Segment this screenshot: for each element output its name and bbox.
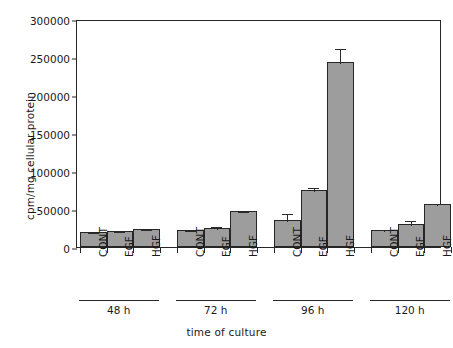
category-label-hgf: HGF <box>441 235 453 257</box>
y-tick-label: 200000 <box>30 91 77 103</box>
group-rule <box>176 300 256 301</box>
error-bar-cap <box>335 49 346 50</box>
category-label-hgf: HGF <box>247 235 259 257</box>
x-axis-title: time of culture <box>0 326 453 338</box>
error-bar-cap <box>211 227 222 228</box>
group-label: 96 h <box>273 304 353 316</box>
error-bar-cap <box>141 230 152 231</box>
plot-area: 050000100000150000200000250000300000 <box>76 20 441 248</box>
y-tick-mark <box>72 249 77 250</box>
group-rule <box>79 300 159 301</box>
category-label-egf: EGF <box>123 236 135 257</box>
x-tick-mark <box>274 247 275 253</box>
category-label-egf: EGF <box>317 236 329 257</box>
error-bar-cap <box>432 204 443 205</box>
group-label: 120 h <box>370 304 450 316</box>
y-tick-label: 100000 <box>30 167 77 179</box>
category-label-cont: CONT <box>97 227 109 257</box>
error-bar-cap <box>238 212 249 213</box>
group-rule <box>273 300 353 301</box>
figure: cpm/mg cellular protein 0500001000001500… <box>0 0 453 348</box>
category-label-cont: CONT <box>291 227 303 257</box>
y-tick-label: 150000 <box>30 129 77 141</box>
y-tick-label: 50000 <box>37 205 77 217</box>
x-tick-mark <box>80 247 81 253</box>
error-bar-cap <box>114 232 125 233</box>
error-bar-stem <box>287 214 288 222</box>
y-tick-label: 250000 <box>30 53 77 65</box>
category-label-egf: EGF <box>220 236 232 257</box>
x-tick-mark <box>177 247 178 253</box>
y-axis-title: cpm/mg cellular protein <box>24 56 36 256</box>
category-label-hgf: HGF <box>150 235 162 257</box>
category-label-cont: CONT <box>388 227 400 257</box>
bar-series <box>77 21 440 247</box>
error-bar-cap <box>282 214 293 215</box>
error-bar-stem <box>340 49 341 64</box>
group-label: 48 h <box>79 304 159 316</box>
category-label-hgf: HGF <box>344 235 356 257</box>
y-tick-label: 300000 <box>30 15 77 27</box>
x-tick-mark <box>371 247 372 253</box>
error-bar-cap <box>308 188 319 189</box>
group-rule <box>370 300 450 301</box>
category-label-egf: EGF <box>414 236 426 257</box>
bar <box>327 62 354 247</box>
error-bar-cap <box>405 221 416 222</box>
group-label: 72 h <box>176 304 256 316</box>
category-label-cont: CONT <box>194 227 206 257</box>
